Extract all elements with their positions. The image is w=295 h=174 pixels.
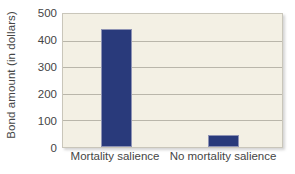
bar-chart-figure: Bond amount (in dollars) 500 400 300 200… <box>0 0 295 174</box>
bar-mortality-salience <box>101 29 132 147</box>
y-tick-label-400: 400 <box>38 34 57 46</box>
y-axis-title-label: Bond amount (in dollars) <box>5 11 17 139</box>
y-tick-label-100: 100 <box>38 115 57 127</box>
x-tick-label-no-mortality-salience: No mortality salience <box>170 150 277 162</box>
y-tick-label-200: 200 <box>38 88 57 100</box>
x-tick-label-mortality-salience: Mortality salience <box>71 150 160 162</box>
plot-area <box>62 13 283 148</box>
y-axis-tick-labels: 500 400 300 200 100 0 <box>22 0 60 155</box>
x-axis-tick-labels: Mortality salience No mortality salience <box>62 150 283 172</box>
bar-no-mortality-salience <box>208 135 239 147</box>
y-tick-label-300: 300 <box>38 61 57 73</box>
y-axis-title: Bond amount (in dollars) <box>0 0 22 150</box>
y-tick-label-500: 500 <box>38 7 57 19</box>
y-tick-label-0: 0 <box>51 142 57 154</box>
bars-group <box>63 14 282 147</box>
